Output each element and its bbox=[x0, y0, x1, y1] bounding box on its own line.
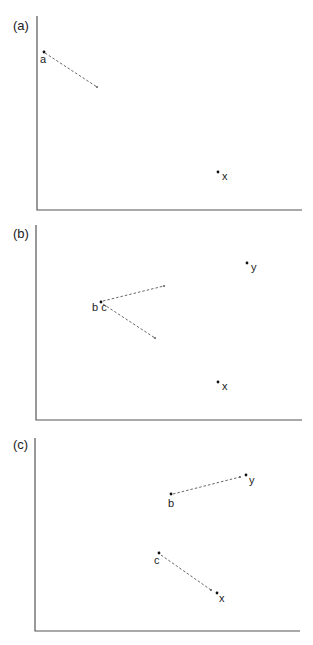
arrow-tip-icon bbox=[163, 285, 165, 287]
axes-c bbox=[35, 438, 300, 631]
point-y bbox=[246, 262, 249, 265]
point-x bbox=[217, 381, 220, 384]
arrow-c-down bbox=[103, 304, 155, 338]
diagram-canvas: (a) a x (b) b c y x (c) b y c bbox=[0, 0, 313, 645]
arrow-tip-icon bbox=[96, 86, 98, 88]
arrow-tip-icon bbox=[154, 337, 156, 339]
panel-label-b: (b) bbox=[13, 226, 29, 241]
point-label-y: y bbox=[251, 261, 257, 273]
point-x bbox=[217, 171, 220, 174]
point-label-x: x bbox=[222, 380, 228, 392]
point-label-x: x bbox=[219, 592, 225, 604]
arrow-tip-icon bbox=[210, 589, 212, 591]
arrow-b-up bbox=[103, 286, 164, 301]
point-label-y: y bbox=[249, 474, 255, 486]
arrow-c-to-x bbox=[161, 555, 211, 590]
panel-c: (c) b y c x bbox=[13, 437, 300, 631]
panel-label-c: (c) bbox=[13, 437, 28, 452]
point-b bbox=[170, 493, 173, 496]
arrow-tip-icon bbox=[239, 476, 241, 478]
point-x bbox=[216, 592, 219, 595]
point-label-bc: b c bbox=[92, 301, 107, 313]
panel-b: (b) b c y x bbox=[13, 225, 302, 420]
point-label-b: b bbox=[168, 497, 174, 509]
point-label-c: c bbox=[154, 554, 160, 566]
panel-a: (a) a x bbox=[13, 16, 302, 210]
axes-b bbox=[36, 225, 302, 420]
point-y bbox=[245, 474, 248, 477]
point-label-x: x bbox=[222, 170, 228, 182]
panel-label-a: (a) bbox=[13, 18, 29, 33]
arrow-a-to-target bbox=[45, 53, 97, 87]
point-label-a: a bbox=[40, 53, 47, 65]
arrow-b-to-y bbox=[173, 477, 240, 494]
axes-a bbox=[37, 16, 302, 210]
